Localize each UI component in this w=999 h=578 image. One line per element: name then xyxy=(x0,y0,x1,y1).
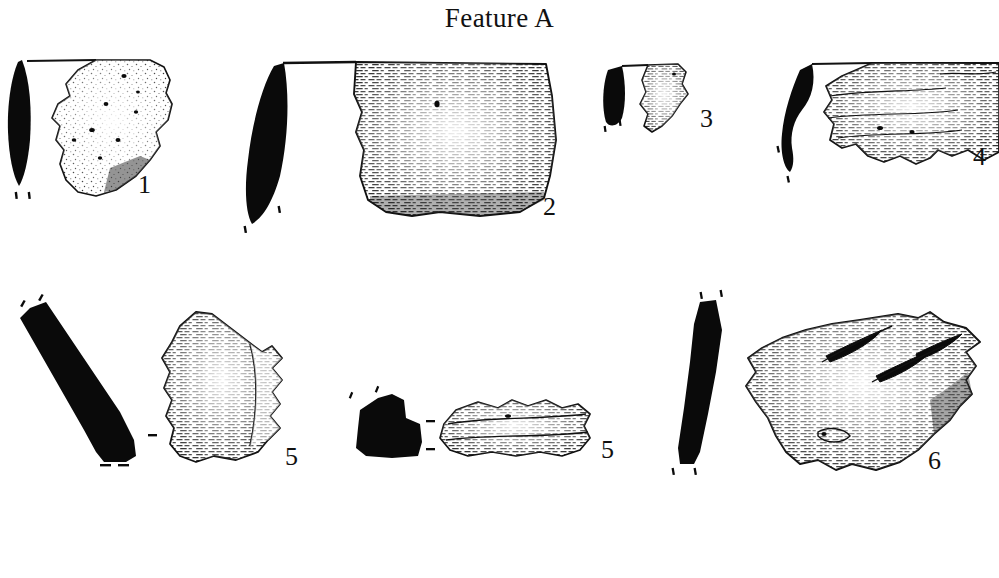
break-tick xyxy=(28,192,31,199)
surface-pit xyxy=(434,101,439,107)
break-tick xyxy=(619,120,622,126)
figure-number-4: 4 xyxy=(973,144,986,170)
break-tick xyxy=(100,464,111,466)
page-title: Feature A xyxy=(0,4,999,34)
figure-number-5-right: 5 xyxy=(601,437,614,463)
profile-silhouette xyxy=(246,63,288,224)
rim-line xyxy=(622,65,648,66)
illustration-plate: Feature A xyxy=(0,0,999,578)
break-tick xyxy=(426,448,435,450)
break-tick xyxy=(277,206,281,213)
artifact-2[interactable] xyxy=(243,62,556,233)
rim-line xyxy=(812,63,872,64)
artifact-5-right[interactable] xyxy=(349,386,590,458)
plate-drawing xyxy=(0,0,999,578)
profile-silhouette xyxy=(781,64,813,172)
break-tick xyxy=(699,292,702,299)
surface-pit xyxy=(909,130,914,134)
surface-pit xyxy=(672,72,676,75)
figure-number-1: 1 xyxy=(138,172,151,198)
surface-pit xyxy=(877,126,883,130)
break-tick xyxy=(426,420,435,422)
break-tick xyxy=(148,434,157,436)
profile-silhouette xyxy=(356,394,422,458)
break-tick xyxy=(671,468,674,475)
break-tick xyxy=(719,290,722,297)
break-tick xyxy=(693,468,696,475)
artifact-3[interactable] xyxy=(603,64,688,132)
artifact-5-left[interactable] xyxy=(20,294,282,466)
profile-silhouette xyxy=(678,300,722,464)
profile-silhouette xyxy=(20,302,136,462)
artifact-4[interactable] xyxy=(776,63,999,183)
figure-number-5-left: 5 xyxy=(285,444,298,470)
break-tick xyxy=(118,464,129,466)
break-tick xyxy=(604,126,607,132)
rim-line xyxy=(27,60,96,61)
profile-silhouette xyxy=(603,66,625,125)
surface-pit xyxy=(505,414,511,418)
break-tick xyxy=(15,192,18,199)
figure-number-3: 3 xyxy=(700,106,713,132)
figure-number-6: 6 xyxy=(928,448,941,474)
break-tick xyxy=(786,176,790,183)
rim-line xyxy=(283,62,356,63)
break-tick xyxy=(349,392,353,399)
break-tick xyxy=(20,300,26,307)
break-tick xyxy=(375,386,379,393)
break-tick xyxy=(38,294,44,301)
break-tick xyxy=(776,146,780,153)
surface-pit xyxy=(821,432,826,436)
break-tick xyxy=(243,226,247,233)
figure-number-2: 2 xyxy=(543,194,556,220)
profile-silhouette xyxy=(8,60,31,186)
